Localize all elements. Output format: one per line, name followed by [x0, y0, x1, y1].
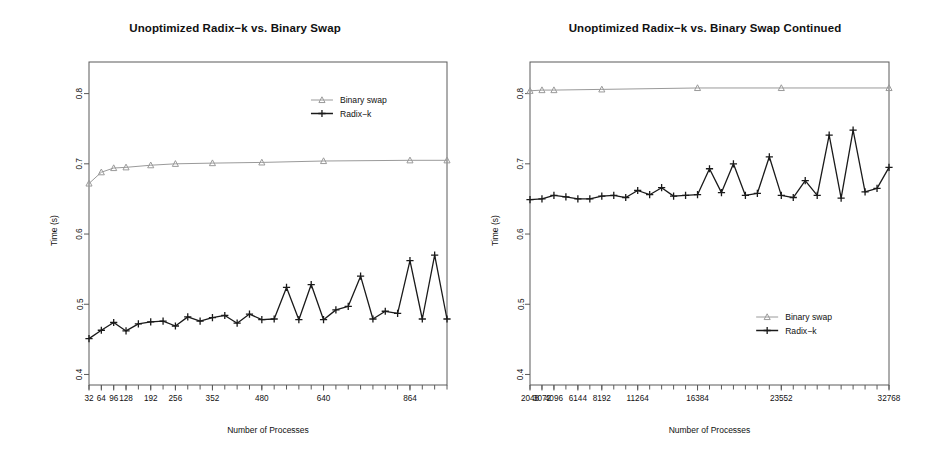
y-tick-label: 0.8 — [76, 87, 85, 99]
y-tick-label: 0.5 — [76, 298, 85, 310]
plot-box — [89, 62, 447, 385]
marker-plus — [873, 185, 880, 192]
marker-plus — [766, 153, 773, 160]
marker-plus — [706, 165, 713, 172]
marker-plus — [394, 310, 401, 317]
marker-plus — [622, 194, 629, 201]
marker-plus — [682, 192, 689, 199]
x-tick-label: 6144 — [569, 394, 588, 403]
y-tick-label: 0.7 — [76, 158, 85, 170]
x-tick-label: 256 — [169, 394, 183, 403]
marker-plus — [209, 314, 216, 321]
plot-area-right: 0.40.50.60.70.82048307240966144819211264… — [470, 0, 940, 465]
series-line-binary-swap — [530, 88, 889, 91]
marker-plus — [598, 193, 605, 200]
y-tick-label: 0.8 — [517, 87, 526, 99]
marker-plus — [419, 315, 426, 322]
marker-plus — [550, 192, 557, 199]
marker-plus — [382, 308, 389, 315]
marker-plus — [357, 273, 364, 280]
plot-area-left: 0.40.50.60.70.83264961281922563524806408… — [0, 0, 470, 465]
y-tick-label: 0.6 — [517, 228, 526, 240]
x-tick-label: 192 — [144, 394, 158, 403]
y-tick-label: 0.4 — [517, 368, 526, 380]
marker-plus — [431, 252, 438, 259]
marker-plus — [826, 131, 833, 138]
x-tick-label: 640 — [317, 394, 331, 403]
series-line-radix-k — [89, 255, 447, 339]
x-tick-label: 32768 — [878, 394, 901, 403]
marker-plus — [197, 318, 204, 325]
marker-plus — [718, 189, 725, 196]
x-tick-label: 8192 — [593, 394, 612, 403]
marker-plus — [159, 318, 166, 325]
marker-plus — [574, 195, 581, 202]
marker-plus — [221, 312, 228, 319]
chart-panel-left: Unoptimized Radix−k vs. Binary Swap Time… — [0, 0, 470, 465]
y-tick-label: 0.4 — [76, 368, 85, 380]
x-tick-label: 352 — [206, 394, 220, 403]
chart-panel-right: Unoptimized Radix−k vs. Binary Swap Cont… — [470, 0, 940, 465]
marker-plus — [742, 192, 749, 199]
marker-plus — [369, 315, 376, 322]
x-tick-label: 64 — [97, 394, 107, 403]
marker-plus — [838, 195, 845, 202]
marker-plus — [850, 127, 857, 134]
marker-plus — [694, 191, 701, 198]
marker-plus — [110, 319, 117, 326]
legend-label-radix-k: Radix−k — [340, 109, 372, 119]
marker-plus — [318, 110, 325, 117]
legend: Binary swapRadix−k — [311, 95, 387, 119]
marker-plus — [538, 195, 545, 202]
marker-plus — [345, 303, 352, 310]
marker-plus — [754, 190, 761, 197]
marker-plus — [147, 318, 154, 325]
y-tick-label: 0.7 — [517, 158, 526, 170]
figure-container: Unoptimized Radix−k vs. Binary Swap Time… — [0, 0, 940, 465]
marker-plus — [122, 327, 129, 334]
x-tick-label: 32 — [84, 394, 94, 403]
x-tick-label: 23552 — [770, 394, 793, 403]
marker-plus — [586, 195, 593, 202]
marker-plus — [406, 257, 413, 264]
marker-plus — [135, 320, 142, 327]
legend: Binary swapRadix−k — [756, 312, 832, 336]
series-line-radix-k — [530, 130, 889, 200]
marker-plus — [295, 316, 302, 323]
marker-plus — [778, 192, 785, 199]
x-tick-label: 128 — [119, 394, 133, 403]
marker-plus — [764, 327, 771, 334]
x-tick-label: 864 — [403, 394, 417, 403]
marker-plus — [85, 335, 92, 342]
marker-plus — [562, 193, 569, 200]
x-tick-label: 480 — [255, 394, 269, 403]
legend-label-binary-swap: Binary swap — [340, 95, 387, 105]
marker-plus — [610, 192, 617, 199]
marker-plus — [646, 191, 653, 198]
series-line-binary-swap — [89, 160, 447, 183]
marker-plus — [258, 316, 265, 323]
marker-plus — [271, 315, 278, 322]
marker-plus — [861, 188, 868, 195]
legend-label-binary-swap: Binary swap — [785, 312, 832, 322]
x-tick-label: 4096 — [545, 394, 564, 403]
x-tick-label: 11264 — [627, 394, 650, 403]
marker-plus — [885, 164, 892, 171]
y-tick-label: 0.6 — [76, 228, 85, 240]
legend-label-radix-k: Radix−k — [785, 326, 817, 336]
y-tick-label: 0.5 — [517, 298, 526, 310]
x-tick-label: 16384 — [686, 394, 709, 403]
marker-plus — [634, 187, 641, 194]
marker-plus — [308, 281, 315, 288]
marker-plus — [283, 284, 290, 291]
marker-plus — [730, 160, 737, 167]
plot-box — [530, 62, 889, 385]
marker-plus — [443, 315, 450, 322]
marker-plus — [526, 196, 533, 203]
x-tick-label: 96 — [109, 394, 119, 403]
marker-plus — [98, 327, 105, 334]
